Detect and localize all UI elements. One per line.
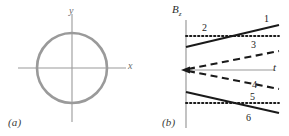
figure-root: y x (a) Bz t 1 (0, 0, 289, 136)
y-axis-label-a: y (69, 5, 73, 16)
y-axis-label-b: Bz (172, 3, 181, 18)
curve-3-dashed (188, 51, 279, 69)
curve-label-6: 6 (246, 112, 251, 123)
curve-label-1: 1 (264, 13, 269, 24)
curve-label-2: 2 (202, 22, 207, 33)
panel-b: Bz t 1 2 3 4 5 6 (b) (145, 0, 289, 136)
y-axis-label-b-main: B (172, 3, 179, 15)
curve-label-5: 5 (250, 91, 255, 102)
curve-4-dashed (188, 71, 279, 89)
y-axis-label-b-subscript: z (179, 10, 182, 18)
panel-caption-b: (b) (162, 116, 175, 128)
x-axis-label-a: x (128, 60, 132, 71)
panel-caption-a: (a) (8, 116, 21, 128)
curve-label-4: 4 (252, 79, 257, 90)
curve-label-3: 3 (251, 39, 256, 50)
panel-a: y x (a) (0, 0, 145, 136)
panel-a-graphic (0, 0, 145, 136)
x-axis-label-b: t (273, 61, 276, 73)
